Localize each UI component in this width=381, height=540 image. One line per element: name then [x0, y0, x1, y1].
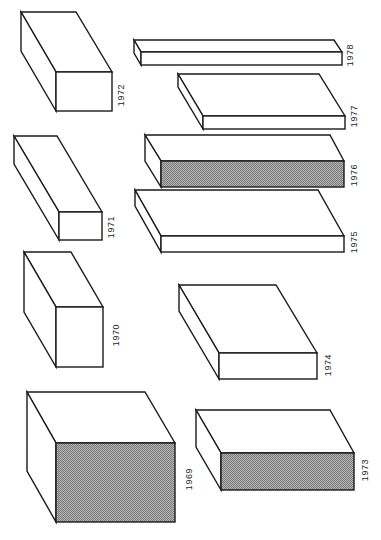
block-front-face-shaded	[221, 453, 354, 490]
block-front-face	[161, 236, 344, 252]
block-top-face	[134, 40, 342, 52]
block-top-face	[178, 74, 345, 116]
year-label: 1974	[323, 354, 333, 376]
block-front-face	[141, 52, 342, 65]
year-label: 1972	[116, 84, 126, 106]
year-block-1973: 1973	[196, 410, 370, 490]
block-top-face	[196, 410, 354, 453]
year-block-1971: 1971	[14, 136, 116, 240]
year-block-1978: 1978	[134, 40, 355, 66]
block-front-face	[59, 212, 102, 240]
block-front-face	[56, 72, 112, 111]
year-label: 1971	[106, 216, 116, 238]
year-label: 1975	[349, 231, 359, 253]
block-top-face	[145, 135, 344, 161]
year-label: 1970	[111, 324, 121, 346]
year-label: 1976	[349, 164, 359, 186]
year-block-1976: 1976	[145, 135, 359, 187]
year-label: 1973	[360, 459, 370, 481]
year-block-1977: 1977	[178, 74, 359, 129]
year-blocks-group: 1969197019711972197319741975197619771978	[14, 12, 370, 522]
year-block-1972: 1972	[21, 12, 126, 111]
year-label: 1977	[349, 105, 359, 127]
year-label: 1969	[184, 468, 194, 490]
year-label: 1978	[345, 44, 355, 66]
year-block-1970: 1970	[24, 252, 121, 367]
year-block-1975: 1975	[135, 190, 359, 253]
block-front-face-shaded	[56, 443, 175, 522]
block-front-face	[219, 353, 317, 379]
block-front-face-shaded	[161, 161, 344, 187]
year-block-1969: 1969	[27, 392, 194, 522]
block-front-face	[56, 307, 103, 367]
block-top-face	[135, 190, 344, 236]
year-block-1974: 1974	[179, 285, 333, 379]
isometric-year-blocks-diagram: 1969197019711972197319741975197619771978	[0, 0, 381, 540]
block-front-face	[203, 116, 345, 129]
